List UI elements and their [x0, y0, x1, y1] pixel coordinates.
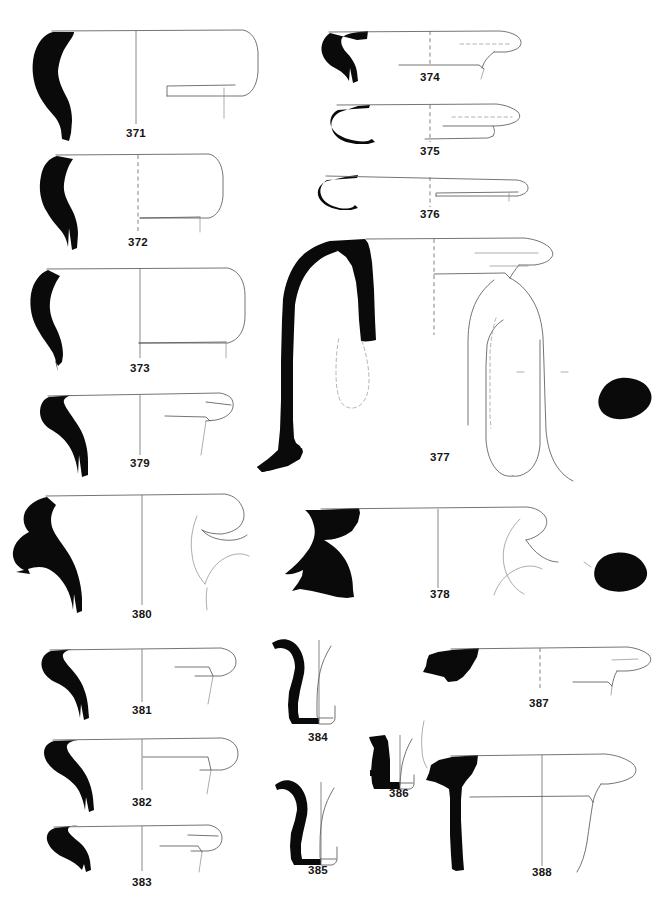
figure-379-label: 379 — [130, 457, 150, 469]
figure-372-label: 372 — [128, 236, 148, 248]
figure-375-label: 375 — [420, 145, 440, 157]
figure-385-label: 385 — [308, 864, 328, 876]
figure-387-label: 387 — [529, 697, 549, 709]
plate-background — [0, 0, 672, 911]
figure-374-label: 374 — [420, 71, 440, 83]
figure-380-label: 380 — [132, 608, 152, 620]
figure-382-label: 382 — [132, 796, 152, 808]
figure-373-label: 373 — [130, 362, 150, 374]
figure-384-label: 384 — [308, 731, 328, 743]
figure-371-label: 371 — [126, 127, 146, 139]
pottery-plate-figure: 371 372 373 379 380 — [0, 0, 672, 911]
figure-377-label: 377 — [430, 451, 450, 463]
figure-378-label: 378 — [430, 588, 450, 600]
figure-386-label: 386 — [389, 787, 409, 799]
figure-381-label: 381 — [132, 704, 152, 716]
figure-383-label: 383 — [132, 876, 152, 888]
figure-376-label: 376 — [420, 208, 440, 220]
figure-388-label: 388 — [532, 866, 552, 878]
